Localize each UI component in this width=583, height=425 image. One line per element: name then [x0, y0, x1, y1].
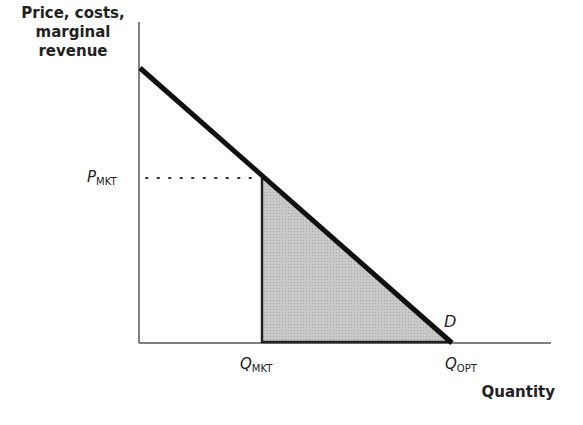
x-axis-label: Quantity [470, 383, 555, 401]
chart-canvas [0, 0, 583, 425]
q-opt-label: QOPT [445, 355, 477, 374]
y-axis-label: Price, costs, marginal revenue [14, 4, 132, 61]
q-mkt-label: QMKT [240, 355, 272, 374]
y-label-line-3: revenue [14, 42, 132, 61]
demand-curve-label: D [444, 312, 456, 331]
y-label-line-2: marginal [14, 23, 132, 42]
p-mkt-label: PMKT [87, 168, 117, 187]
y-label-line-1: Price, costs, [14, 4, 132, 23]
